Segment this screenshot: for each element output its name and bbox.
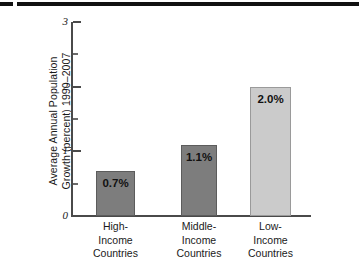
bar-1: 0.7%	[96, 171, 135, 216]
y-tick-minor	[73, 53, 78, 55]
bar-2: 1.1%	[181, 145, 217, 216]
bar-value-label: 0.7%	[97, 177, 134, 189]
y-tick-label-wrap: 0	[50, 209, 68, 221]
y-tick-major	[73, 86, 81, 88]
x-category-label-line: Low-	[223, 220, 319, 234]
y-tick-label-wrap: 2	[50, 80, 68, 92]
y-tick-minor	[73, 118, 78, 120]
y-tick-label: 3	[54, 15, 68, 27]
bar-value-label: 2.0%	[251, 93, 290, 105]
x-category-label-line: High-	[68, 220, 164, 234]
y-tick-label: 0	[54, 209, 68, 221]
y-tick-major	[73, 21, 81, 23]
x-category-label-line: Income	[223, 234, 319, 248]
y-tick-label: 1	[54, 144, 68, 156]
bar-chart: Average Annual Population Growth (percen…	[0, 0, 359, 272]
y-tick-label-wrap: 1	[50, 144, 68, 156]
x-category-label-3: Low-IncomeCountries	[223, 220, 319, 261]
y-tick-major	[73, 215, 81, 217]
x-category-label-line: Income	[68, 234, 164, 248]
x-category-label-line: Countries	[223, 247, 319, 261]
y-tick-major	[73, 150, 81, 152]
x-category-label-1: High-IncomeCountries	[68, 220, 164, 261]
y-tick-label: 2	[54, 80, 68, 92]
bar-3: 2.0%	[250, 87, 291, 216]
x-category-label-line: Countries	[68, 247, 164, 261]
y-tick-label-wrap: 3	[50, 15, 68, 27]
y-axis-title: Average Annual Population Growth (percen…	[47, 23, 73, 219]
bar-value-label: 1.1%	[182, 151, 216, 163]
y-tick-minor	[73, 183, 78, 185]
